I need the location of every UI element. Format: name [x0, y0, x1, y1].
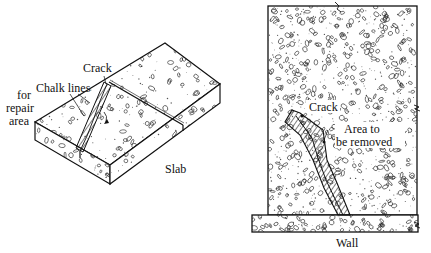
aggregate-speck: [146, 91, 147, 92]
aggregate-speck: [90, 89, 91, 90]
aggregate-speck: [401, 89, 402, 90]
aggregate-speck: [384, 185, 385, 186]
aggregate-stone: [144, 173, 148, 178]
aggregate-speck: [386, 200, 387, 201]
aggregate-speck: [365, 10, 366, 11]
aggregate-speck: [371, 180, 372, 181]
aggregate-speck: [51, 45, 52, 46]
aggregate-stone: [189, 52, 193, 57]
aggregate-speck: [411, 64, 412, 65]
aggregate-speck: [93, 182, 94, 183]
aggregate-speck: [303, 93, 304, 94]
aggregate-speck: [209, 154, 210, 155]
aggregate-speck: [122, 165, 123, 166]
aggregate-speck: [175, 144, 176, 145]
aggregate-speck: [394, 209, 395, 210]
aggregate-speck: [127, 97, 128, 98]
aggregate-speck: [54, 107, 55, 108]
aggregate-speck: [95, 167, 96, 168]
aggregate-speck: [387, 104, 388, 105]
aggregate-speck: [294, 65, 295, 66]
aggregate-speck: [285, 167, 286, 168]
aggregate-speck: [338, 167, 339, 168]
aggregate-speck: [277, 79, 278, 80]
aggregate-speck: [285, 96, 286, 97]
aggregate-speck: [171, 102, 172, 103]
aggregate-speck: [358, 196, 359, 197]
aggregate-speck: [285, 98, 286, 99]
aggregate-speck: [406, 101, 407, 102]
aggregate-speck: [311, 114, 312, 115]
aggregate-stone: [185, 150, 190, 155]
aggregate-speck: [406, 14, 407, 15]
aggregate-speck: [281, 171, 282, 172]
aggregate-speck: [210, 83, 211, 84]
aggregate-speck: [366, 23, 367, 24]
aggregate-speck: [145, 163, 146, 164]
aggregate-stone: [181, 146, 188, 153]
aggregate-speck: [77, 64, 78, 65]
aggregate-speck: [293, 104, 294, 105]
aggregate-speck: [121, 181, 122, 182]
aggregate-speck: [268, 143, 269, 144]
aggregate-speck: [409, 172, 410, 173]
aggregate-speck: [380, 113, 381, 114]
aggregate-speck: [99, 150, 100, 151]
aggregate-speck: [59, 127, 60, 128]
aggregate-speck: [303, 9, 304, 10]
aggregate-speck: [412, 150, 413, 151]
aggregate-speck: [369, 68, 370, 69]
aggregate-speck: [332, 118, 333, 119]
aggregate-speck: [315, 197, 316, 198]
aggregate-speck: [181, 44, 182, 45]
aggregate-stone: [52, 164, 56, 167]
aggregate-speck: [373, 44, 374, 45]
aggregate-speck: [268, 78, 269, 79]
aggregate-speck: [274, 49, 275, 50]
aggregate-speck: [280, 159, 281, 160]
aggregate-speck: [416, 179, 417, 180]
aggregate-speck: [114, 139, 115, 140]
aggregate-speck: [349, 227, 350, 228]
aggregate-speck: [269, 94, 270, 95]
aggregate-speck: [290, 21, 291, 22]
aggregate-speck: [127, 71, 128, 72]
aggregate-speck: [314, 193, 315, 194]
aggregate-speck: [192, 46, 193, 47]
aggregate-speck: [268, 100, 269, 101]
aggregate-speck: [281, 10, 282, 11]
aggregate-stone: [155, 152, 160, 157]
aggregate-speck: [404, 18, 405, 19]
aggregate-speck: [64, 163, 65, 164]
aggregate-speck: [139, 65, 140, 66]
aggregate-speck: [343, 8, 344, 9]
aggregate-speck: [389, 190, 390, 191]
aggregate-speck: [329, 51, 330, 52]
aggregate-speck: [300, 13, 301, 14]
aggregate-speck: [395, 229, 396, 230]
aggregate-speck: [415, 116, 416, 117]
aggregate-speck: [293, 83, 294, 84]
aggregate-speck: [270, 177, 271, 178]
chalk-lines-label: Chalk lines: [36, 81, 91, 95]
aggregate-speck: [410, 206, 411, 207]
aggregate-speck: [324, 79, 325, 80]
aggregate-speck: [374, 70, 375, 71]
aggregate-speck: [61, 72, 62, 73]
aggregate-stone: [197, 122, 203, 128]
aggregate-speck: [330, 11, 331, 12]
aggregate-speck: [394, 24, 395, 25]
aggregate-speck: [320, 9, 321, 10]
aggregate-stone: [135, 168, 139, 172]
aggregate-speck: [340, 225, 341, 226]
aggregate-speck: [306, 187, 307, 188]
aggregate-speck: [403, 35, 404, 36]
aggregate-speck: [92, 142, 93, 143]
aggregate-speck: [206, 122, 207, 123]
aggregate-speck: [353, 15, 354, 16]
aggregate-speck: [268, 127, 269, 128]
wall-area-label-line1: Area to: [344, 122, 380, 136]
aggregate-speck: [380, 72, 381, 73]
aggregate-speck: [348, 111, 349, 112]
aggregate-speck: [252, 216, 253, 217]
